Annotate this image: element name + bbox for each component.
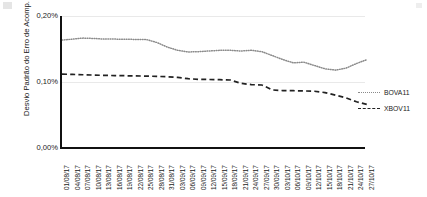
x-tick-label: 24/09/17 [252,165,259,190]
x-tick-label: 06/09/17 [189,165,196,190]
x-tick-label: 28/08/17 [158,165,165,190]
x-tick-label: 13/08/17 [105,165,112,190]
chart-container: Desvio Padrão do Erro de Acomp. 0,00%0,1… [0,0,427,197]
legend-label: BOVA11 [384,89,409,96]
scan-artifact-top-right [416,3,422,8]
plot-area [60,16,365,148]
x-tick-label: 07/08/17 [84,165,91,190]
x-tick-label: 24/10/17 [357,165,364,190]
x-tick-label: 27/10/17 [368,165,375,190]
x-tick-label: 15/09/17 [221,165,228,190]
x-tick-label: 15/10/17 [326,165,333,190]
x-axis-tick-labels: 01/08/1704/08/1707/08/1710/08/1713/08/17… [60,150,365,197]
series-canvas [62,16,367,148]
x-tick-label: 12/09/17 [210,165,217,190]
x-tick-label: 22/08/17 [137,165,144,190]
x-tick-label: 04/08/17 [74,165,81,190]
x-tick-label: 06/10/17 [294,165,301,190]
legend-label: XBOV11 [384,105,410,112]
legend-line-dotted-icon [358,92,380,94]
x-tick-label: 27/09/17 [263,165,270,190]
x-tick-label: 25/08/17 [147,165,154,190]
x-tick-label: 03/10/17 [284,165,291,190]
x-tick-label: 09/10/17 [305,165,312,190]
x-tick-label: 19/08/17 [126,165,133,190]
scan-artifact-top-left [3,2,12,9]
x-tick-label: 18/09/17 [231,165,238,190]
x-tick-label: 12/10/17 [315,165,322,190]
x-tick-label: 21/10/17 [347,165,354,190]
plot-inner [62,16,365,148]
x-tick-label: 10/08/17 [95,165,102,190]
y-tick-label: 0,00% [36,143,58,152]
series-line-bova11 [62,38,367,70]
y-tick-label: 0,10% [36,77,58,86]
x-tick-label: 21/09/17 [242,165,249,190]
legend-line-dashed-icon [358,108,380,110]
y-tick-label: 0,20% [36,11,58,20]
x-tick-label: 31/08/17 [168,165,175,190]
x-axis-line [60,147,365,149]
legend-item-bova11[interactable]: BOVA11 [358,86,427,99]
x-tick-label: 01/08/17 [63,165,70,190]
series-line-xbov11 [62,74,367,104]
y-axis-tick-labels: 0,00%0,10%0,20% [20,0,58,197]
x-tick-label: 30/09/17 [273,165,280,190]
x-tick-label: 03/09/17 [179,165,186,190]
x-tick-label: 09/09/17 [200,165,207,190]
x-tick-label: 18/10/17 [336,165,343,190]
x-tick-label: 16/08/17 [116,165,123,190]
chart-legend: BOVA11 XBOV11 [358,86,427,118]
legend-item-xbov11[interactable]: XBOV11 [358,102,427,115]
